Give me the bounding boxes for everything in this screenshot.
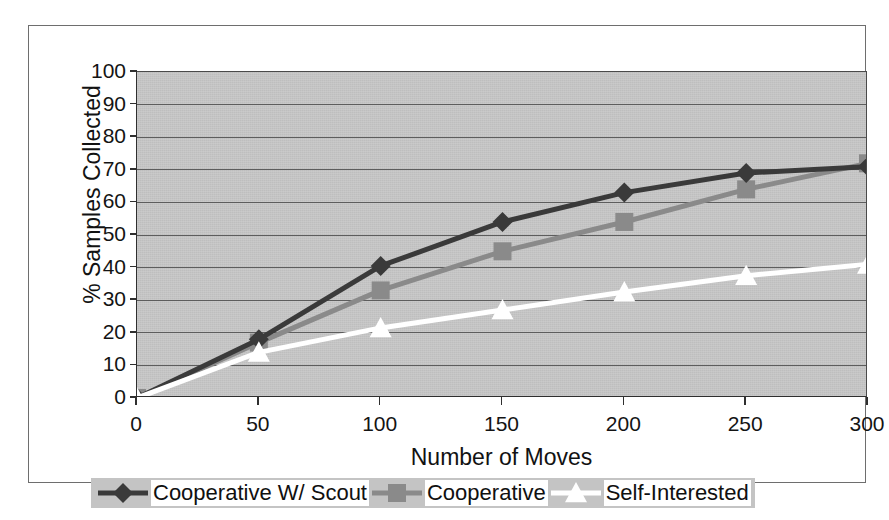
square-marker [372,281,390,299]
x-tick-label: 200 [588,413,658,434]
x-tick-mark [135,397,137,405]
y-tick-mark [130,201,137,203]
square-marker [615,213,633,231]
diamond-marker [113,483,133,503]
diamond-marker [736,163,756,183]
y-axis-title: % Samples Collected [79,35,106,355]
series-layer [137,72,867,397]
y-tick-mark [130,168,137,170]
legend-entry[interactable]: Cooperative [369,478,548,508]
chart-legend: Cooperative W/ ScoutCooperativeSelf-Inte… [91,478,755,508]
x-tick-label: 300 [832,413,889,434]
y-tick-label: 10 [66,353,126,374]
legend-label: Cooperative W/ Scout [151,480,369,506]
x-axis-ticks: 050100150200250300 [136,397,867,447]
legend-triangle-icon [548,480,604,506]
y-tick-label: 0 [66,386,126,407]
x-tick-label: 100 [345,413,415,434]
legend-diamond-icon [95,480,151,506]
series-self-interested [137,253,867,397]
x-tick-mark [623,397,625,405]
legend-square-icon [369,480,425,506]
x-tick-label: 250 [710,413,780,434]
y-tick-mark [130,266,137,268]
diamond-marker [614,183,634,203]
x-tick-mark [866,397,868,405]
y-tick-mark [130,364,137,366]
x-tick-label: 150 [467,413,537,434]
legend-label: Cooperative [425,480,548,506]
legend-entry[interactable]: Self-Interested [548,478,751,508]
x-tick-label: 50 [223,413,293,434]
y-tick-mark [130,233,137,235]
square-marker [494,242,512,260]
y-tick-mark [130,135,137,137]
x-tick-mark [744,397,746,405]
x-tick-label: 0 [101,413,171,434]
chart-frame: 0102030405060708090100 05010015020025030… [28,25,866,483]
y-tick-mark [130,103,137,105]
x-tick-mark [379,397,381,405]
x-tick-mark [257,397,259,405]
legend-entry[interactable]: Cooperative W/ Scout [95,478,369,508]
square-marker [388,484,406,502]
series-line [137,264,867,397]
series-line [137,163,867,397]
x-tick-mark [501,397,503,405]
series-line [137,167,867,397]
y-tick-mark [130,298,137,300]
y-tick-mark [130,331,137,333]
plot-area [136,71,867,397]
x-axis-title: Number of Moves [136,444,867,471]
y-tick-mark [130,70,137,72]
diamond-marker [493,212,513,232]
legend-label: Self-Interested [604,480,751,506]
